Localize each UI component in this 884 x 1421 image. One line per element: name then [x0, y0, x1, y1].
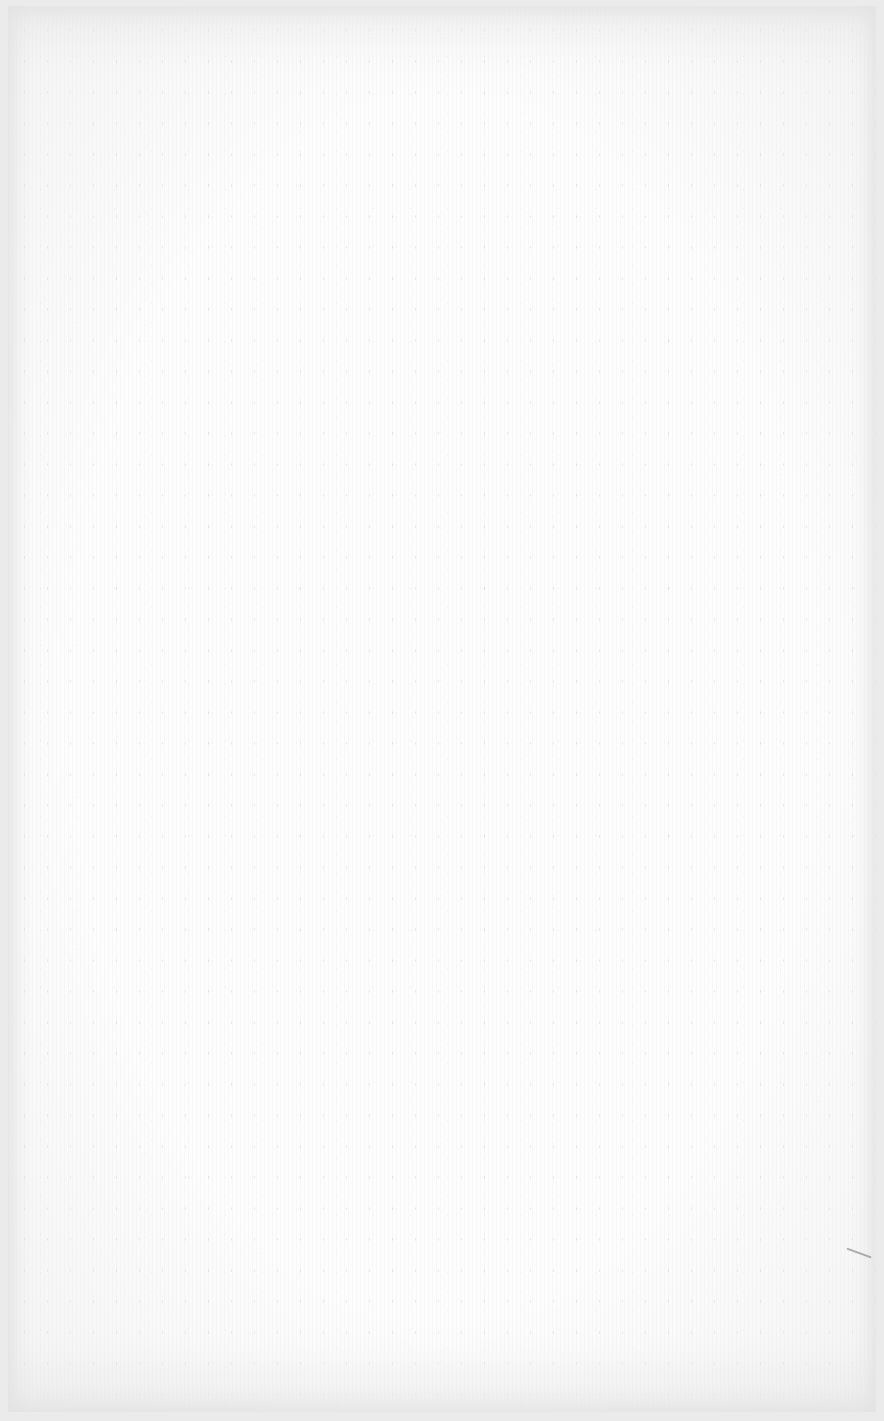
background-frame — [0, 0, 884, 1421]
paper-vignette — [8, 6, 876, 1412]
paper-fiber-mark — [846, 1248, 871, 1259]
blank-paper-sheet — [8, 6, 876, 1412]
